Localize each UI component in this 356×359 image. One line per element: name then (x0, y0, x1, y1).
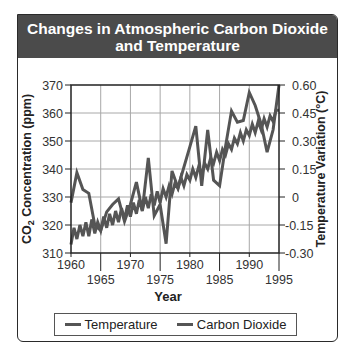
y-tick-right: 0.45 (292, 107, 316, 121)
x-tick: 1960 (57, 258, 85, 272)
y-tick-right: -0.30 (285, 247, 314, 261)
y-tick-left: 360 (42, 107, 63, 121)
x-tick: 1990 (235, 258, 263, 272)
x-tick: 1995 (265, 273, 293, 287)
legend-label-temperature: Temperature (85, 317, 158, 332)
legend-item-temperature: Temperature (65, 317, 158, 332)
y-tick-right: 0.15 (292, 163, 316, 177)
legend-label-carbon-dioxide: Carbon Dioxide (197, 317, 287, 332)
y-tick-left: 370 (42, 79, 63, 93)
x-tick: 1970 (117, 258, 145, 272)
x-tick: 1965 (87, 273, 115, 287)
y-tick-left: 320 (42, 219, 63, 233)
legend-item-carbon-dioxide: Carbon Dioxide (177, 317, 287, 332)
y-tick-right: 0 (292, 191, 299, 205)
y-tick-left: 330 (42, 191, 63, 205)
x-tick: 1975 (146, 273, 174, 287)
chart-plot: 3703603503403303203100.600.450.300.150-0… (0, 0, 356, 359)
y-tick-left: 340 (42, 163, 63, 177)
y-tick-left: 350 (42, 135, 63, 149)
x-axis-label: Year (154, 289, 181, 304)
y-tick-right: -0.15 (285, 219, 314, 233)
y-axis-right-label: Temperature Variation (°C) (314, 91, 328, 248)
temperature-swatch-icon (65, 323, 81, 326)
data-lines (71, 85, 279, 245)
legend: Temperature Carbon Dioxide (54, 313, 297, 336)
x-tick: 1980 (176, 258, 204, 272)
y-tick-right: 0.60 (292, 79, 316, 93)
y-axis-left-label: CO2 Concentration (ppm) (20, 94, 36, 244)
carbon-dioxide-swatch-icon (177, 323, 193, 326)
y-tick-right: 0.30 (292, 135, 316, 149)
x-tick: 1985 (206, 273, 234, 287)
